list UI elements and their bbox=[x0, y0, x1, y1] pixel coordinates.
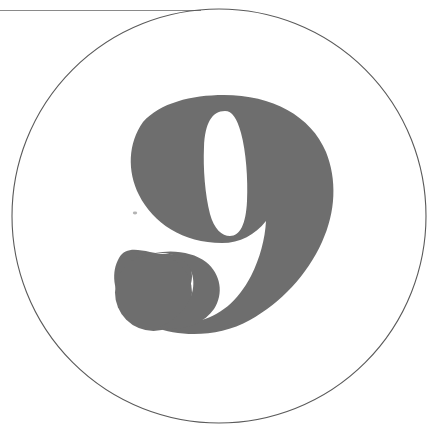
print-speck bbox=[133, 212, 137, 215]
scan-plate: Numeral Nine Plate bbox=[0, 0, 432, 438]
paper-background bbox=[0, 0, 432, 438]
plate-canvas bbox=[0, 0, 432, 438]
